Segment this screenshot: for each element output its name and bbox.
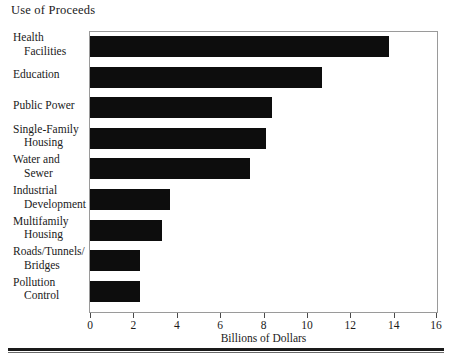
category-label-line: Water and [0, 153, 86, 167]
category-axis-labels: HealthFacilitiesEducationPublic PowerSin… [0, 31, 86, 313]
category-label: Single-FamilyHousing [0, 123, 86, 150]
bar-row [90, 67, 437, 88]
x-axis-tick-label: 14 [388, 318, 400, 332]
category-label-line: Sewer [0, 167, 86, 181]
bar [90, 67, 322, 88]
category-label: Water andSewer [0, 153, 86, 180]
x-axis-tick-label: 0 [87, 318, 93, 332]
category-label: MultifamilyHousing [0, 215, 86, 242]
x-axis-tick-label: 6 [217, 318, 223, 332]
bar [90, 158, 250, 179]
bar [90, 250, 140, 271]
category-label: IndustrialDevelopment [0, 184, 86, 211]
category-label-line: Development [0, 198, 86, 212]
bar-row [90, 220, 437, 241]
bar-row [90, 250, 437, 271]
bar-row [90, 281, 437, 302]
x-axis-tick-label: 10 [301, 318, 313, 332]
category-label: Roads/Tunnels/Bridges [0, 245, 86, 272]
bar-row [90, 128, 437, 149]
x-axis-tick-label: 4 [174, 318, 180, 332]
category-label-line: Health [0, 31, 86, 45]
bar-row [90, 36, 437, 57]
category-label: PollutionControl [0, 276, 86, 303]
category-label-line: Public Power [0, 99, 86, 113]
category-label-line: Control [0, 289, 86, 303]
x-axis-tick-label: 16 [430, 318, 442, 332]
x-axis-title: Billions of Dollars [89, 331, 438, 345]
category-label-line: Pollution [0, 276, 86, 290]
footer-rule-thin [8, 352, 444, 353]
footer-rule [8, 348, 444, 351]
page-title: Use of Proceeds [11, 3, 95, 18]
category-label-line: Roads/Tunnels/ [0, 245, 86, 259]
bar-row [90, 97, 437, 118]
category-label: Public Power [0, 99, 86, 113]
bar [90, 36, 389, 57]
x-axis-tick-label: 2 [131, 318, 137, 332]
bar-row [90, 189, 437, 210]
category-label-line: Bridges [0, 259, 86, 273]
category-label: Education [0, 68, 86, 82]
bar-row [90, 158, 437, 179]
category-label-line: Facilities [0, 45, 86, 59]
x-axis-tick-label: 8 [261, 318, 267, 332]
category-label-line: Housing [0, 228, 86, 242]
bar [90, 128, 266, 149]
bars-layer [90, 32, 437, 312]
category-label-line: Housing [0, 136, 86, 150]
bar [90, 220, 162, 241]
category-label-line: Education [0, 68, 86, 82]
bar [90, 97, 272, 118]
category-label-line: Single-Family [0, 123, 86, 137]
category-label: HealthFacilities [0, 31, 86, 58]
bar [90, 281, 140, 302]
bar [90, 189, 170, 210]
x-axis-tick-label: 12 [345, 318, 357, 332]
category-label-line: Industrial [0, 184, 86, 198]
category-label-line: Multifamily [0, 215, 86, 229]
